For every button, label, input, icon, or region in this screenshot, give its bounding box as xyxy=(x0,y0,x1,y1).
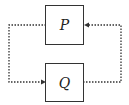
node-p: P xyxy=(45,5,84,45)
edge-p-to-q xyxy=(9,25,46,82)
node-p-label: P xyxy=(60,17,69,33)
edge-q-to-p xyxy=(83,25,121,82)
node-q-label: Q xyxy=(59,75,70,91)
arrowhead-into-p-icon xyxy=(84,23,89,28)
node-q: Q xyxy=(45,63,84,102)
